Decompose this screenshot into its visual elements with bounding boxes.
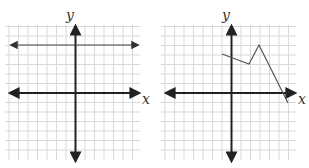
left-x-label: x bbox=[142, 91, 150, 107]
right-graph: y x bbox=[161, 7, 306, 161]
left-graph: y x bbox=[5, 7, 150, 161]
left-y-label: y bbox=[65, 7, 75, 23]
graphs-canvas: y x y x bbox=[0, 0, 309, 168]
right-x-label: x bbox=[298, 91, 306, 107]
right-y-label: y bbox=[221, 7, 231, 23]
